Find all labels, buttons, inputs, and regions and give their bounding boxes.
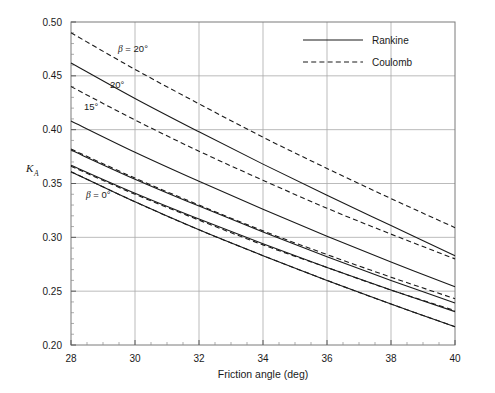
- x-tick-label: 28: [65, 353, 77, 364]
- legend-label-coulomb: Coulomb: [372, 57, 412, 68]
- x-tick-label: 40: [449, 353, 461, 364]
- x-tick-label: 32: [193, 353, 205, 364]
- beta-20-rankine-label: 20°: [110, 79, 125, 90]
- x-tick-label: 36: [321, 353, 333, 364]
- x-tick-label: 38: [385, 353, 397, 364]
- y-axis-title-main: K: [25, 162, 34, 174]
- x-tick-label: 30: [129, 353, 141, 364]
- y-tick-label: 0.45: [43, 70, 63, 81]
- y-tick-label: 0.30: [43, 232, 63, 243]
- x-tick-label: 34: [257, 353, 269, 364]
- beta-15-label: 15°: [84, 101, 99, 112]
- y-tick-label: 0.25: [43, 286, 63, 297]
- chart-figure: 0.200.250.300.350.400.450.50 28303234363…: [0, 0, 495, 393]
- y-tick-label: 0.40: [43, 124, 63, 135]
- beta-0-label: β = 0°: [85, 189, 111, 200]
- chart-svg: 0.200.250.300.350.400.450.50 28303234363…: [0, 0, 495, 393]
- x-axis-tick-labels: 28303234363840: [65, 353, 461, 364]
- y-axis-tick-labels: 0.200.250.300.350.400.450.50: [43, 17, 63, 351]
- beta-20-coulomb-label: β = 20°: [117, 43, 148, 54]
- y-axis-title-subscript: A: [33, 169, 39, 178]
- y-tick-label: 0.50: [43, 17, 63, 28]
- x-axis-title: Friction angle (deg): [218, 368, 308, 380]
- y-axis-title: K A: [25, 162, 39, 178]
- y-tick-label: 0.35: [43, 178, 63, 189]
- y-tick-label: 0.20: [43, 340, 63, 351]
- legend-label-rankine: Rankine: [372, 35, 409, 46]
